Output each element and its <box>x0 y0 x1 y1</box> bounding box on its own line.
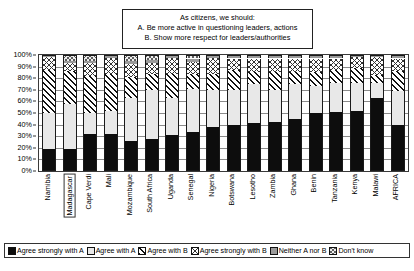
bar-column[interactable] <box>206 55 220 171</box>
bar-column[interactable] <box>350 55 364 171</box>
stacked-bar[interactable] <box>370 55 384 171</box>
x-axis-label-text: Uganda <box>167 174 175 199</box>
legend-item[interactable]: Agree strongly with B <box>191 247 267 255</box>
bar-segment <box>350 68 364 83</box>
x-axis-label-cape-verdi: Cape Verdi <box>85 174 93 210</box>
bar-column[interactable] <box>83 55 97 171</box>
legend-swatch-solid-black-icon <box>8 247 16 255</box>
stacked-bar-chart: As citizens, we should: A. Be more activ… <box>0 0 414 271</box>
stacked-bar[interactable] <box>104 55 118 171</box>
chart-title-line-2: A. Be more active in questioning leaders… <box>127 23 308 33</box>
bar-segment <box>83 76 97 113</box>
bar-segment <box>206 58 220 73</box>
x-axis-label-text: Mali <box>105 174 113 187</box>
x-axis-label-zambia: Zambia <box>269 174 277 198</box>
x-axis-label-text: Tanzania <box>331 174 339 203</box>
x-axis-label-nigeria: Nigeria <box>208 174 216 197</box>
y-axis-tick-mark <box>33 55 36 56</box>
bar-column[interactable] <box>186 55 200 171</box>
stacked-bar[interactable] <box>83 55 97 171</box>
bar-segment <box>104 111 118 134</box>
stacked-bar[interactable] <box>63 55 77 171</box>
bar-segment <box>329 55 343 56</box>
bar-segment <box>186 89 200 132</box>
stacked-bar[interactable] <box>309 55 323 171</box>
bar-segment <box>391 125 405 171</box>
stacked-bar[interactable] <box>247 55 261 171</box>
y-axis-tick-mark <box>33 66 36 67</box>
bar-segment <box>370 56 384 57</box>
bar-column[interactable] <box>247 55 261 171</box>
stacked-bar[interactable] <box>268 55 282 171</box>
legend-item[interactable]: Agree with B <box>138 247 187 255</box>
bar-segment <box>104 58 118 73</box>
stacked-bar[interactable] <box>227 55 241 171</box>
bar-segment <box>288 59 302 73</box>
bar-column[interactable] <box>370 55 384 171</box>
bar-segment <box>247 55 261 56</box>
bar-column[interactable] <box>227 55 241 171</box>
bar-segment <box>288 72 302 84</box>
legend-item[interactable]: Neither A nor B <box>270 247 327 255</box>
bar-segment <box>186 59 200 62</box>
bar-segment <box>350 56 364 57</box>
bar-column[interactable] <box>288 55 302 171</box>
bar-column[interactable] <box>391 55 405 171</box>
y-axis-tick-label: 80% <box>18 75 32 82</box>
x-axis-label-text: South Africa <box>146 174 154 213</box>
y-axis-tick-mark <box>33 159 36 160</box>
stacked-bar[interactable] <box>206 55 220 171</box>
bar-segment <box>124 55 138 61</box>
stacked-bar[interactable] <box>124 55 138 171</box>
bar-column[interactable] <box>165 55 179 171</box>
bar-segment <box>124 141 138 171</box>
y-axis-tick-mark <box>33 113 36 114</box>
x-axis-label-text: Madagascar <box>66 176 74 216</box>
bar-segment <box>350 83 364 111</box>
x-axis-label-benin: Benin <box>310 174 318 192</box>
bar-segment <box>288 55 302 56</box>
stacked-bar[interactable] <box>165 55 179 171</box>
bar-segment <box>268 55 282 56</box>
bar-column[interactable] <box>145 55 159 171</box>
bar-column[interactable] <box>329 55 343 171</box>
stacked-bar[interactable] <box>350 55 364 171</box>
bar-segment <box>227 55 241 56</box>
bar-segment <box>145 139 159 171</box>
bar-column[interactable] <box>42 55 56 171</box>
bar-column[interactable] <box>268 55 282 171</box>
x-axis-label-mozambique: Mozambique <box>126 174 134 215</box>
bar-column[interactable] <box>309 55 323 171</box>
legend-item[interactable]: Don't know <box>329 247 373 255</box>
bar-segment <box>145 55 159 60</box>
legend-item[interactable]: Agree with A <box>87 247 136 255</box>
bar-segment <box>186 132 200 171</box>
bar-segment <box>206 127 220 171</box>
bar-segment <box>370 75 384 83</box>
stacked-bar[interactable] <box>186 55 200 171</box>
bars-layer <box>39 55 408 171</box>
legend-item[interactable]: Agree strongly with A <box>8 247 84 255</box>
stacked-bar[interactable] <box>42 55 56 171</box>
bar-segment <box>227 70 241 90</box>
bar-column[interactable] <box>124 55 138 171</box>
legend-label: Don't know <box>338 247 373 255</box>
bar-column[interactable] <box>104 55 118 171</box>
legend-label: Agree with B <box>147 247 187 255</box>
chart-title-line-1: As citizens, we should: <box>127 13 308 23</box>
bar-segment <box>83 134 97 171</box>
stacked-bar[interactable] <box>288 55 302 171</box>
y-axis-tick-mark <box>33 101 36 102</box>
bar-segment <box>309 59 323 73</box>
bar-segment <box>309 86 323 113</box>
stacked-bar[interactable] <box>329 55 343 171</box>
bar-column[interactable] <box>63 55 77 171</box>
y-axis-tick-mark <box>33 136 36 137</box>
bar-segment <box>104 74 118 111</box>
stacked-bar[interactable] <box>145 55 159 171</box>
bar-segment <box>42 113 56 149</box>
bar-segment <box>370 57 384 74</box>
stacked-bar[interactable] <box>391 55 405 171</box>
bar-segment <box>350 57 364 67</box>
bar-segment <box>145 60 159 63</box>
